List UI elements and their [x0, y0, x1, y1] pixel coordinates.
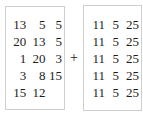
left-matrix: 13 5 5 20 13 5 1 20 3 3 8 15 15 12 [5, 6, 65, 110]
matrix-cell: 25 [119, 33, 139, 50]
matrix-cell [46, 84, 62, 101]
matrix-cell: 5 [105, 67, 119, 84]
matrix-cell: 11 [87, 33, 105, 50]
matrix-cell: 1 [8, 50, 26, 67]
matrix-cell: 11 [87, 67, 105, 84]
matrix-cell: 11 [87, 84, 105, 101]
table-row: 11 5 25 [87, 33, 139, 50]
matrix-cell: 5 [105, 33, 119, 50]
matrix-cell: 25 [119, 50, 139, 67]
matrix-cell: 15 [46, 67, 62, 84]
matrix-cell: 8 [26, 67, 45, 84]
matrix-cell: 5 [105, 50, 119, 67]
matrix-cell: 20 [8, 33, 26, 50]
matrix-addition-expression: 13 5 5 20 13 5 1 20 3 3 8 15 15 12 + 11 … [0, 0, 143, 116]
table-row: 11 5 25 [87, 16, 139, 33]
table-row: 20 13 5 [8, 33, 62, 50]
matrix-cell: 12 [26, 84, 45, 101]
matrix-cell: 25 [119, 67, 139, 84]
table-row: 11 5 25 [87, 50, 139, 67]
plus-sign: + [65, 50, 83, 66]
matrix-cell: 5 [26, 16, 45, 33]
right-matrix: 11 5 25 11 5 25 11 5 25 11 5 25 11 5 25 [83, 5, 142, 111]
matrix-cell: 15 [8, 84, 26, 101]
table-row: 11 5 25 [87, 84, 139, 101]
matrix-cell: 25 [119, 16, 139, 33]
matrix-cell: 3 [8, 67, 26, 84]
matrix-cell: 5 [46, 16, 62, 33]
matrix-cell: 20 [26, 50, 45, 67]
matrix-cell: 3 [46, 50, 62, 67]
matrix-cell: 13 [8, 16, 26, 33]
matrix-cell: 5 [105, 16, 119, 33]
matrix-cell: 11 [87, 16, 105, 33]
matrix-cell: 5 [46, 33, 62, 50]
table-row: 11 5 25 [87, 67, 139, 84]
table-row: 1 20 3 [8, 50, 62, 67]
matrix-cell: 5 [105, 84, 119, 101]
table-row: 13 5 5 [8, 16, 62, 33]
matrix-cell: 25 [119, 84, 139, 101]
matrix-cell: 11 [87, 50, 105, 67]
table-row: 15 12 [8, 84, 62, 101]
matrix-cell: 13 [26, 33, 45, 50]
table-row: 3 8 15 [8, 67, 62, 84]
